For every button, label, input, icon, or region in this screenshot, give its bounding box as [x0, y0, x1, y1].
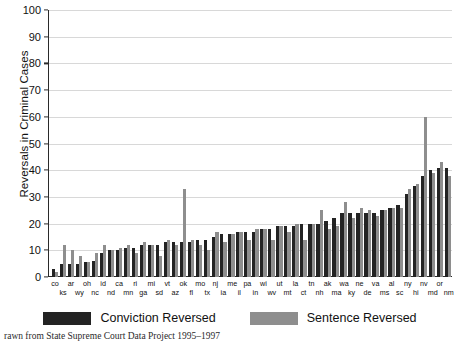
- bar-group: [267, 10, 275, 277]
- y-tick-label: 0: [7, 271, 48, 283]
- bar-sentence-reversed: [95, 253, 98, 277]
- bar-sentence-reversed: [215, 232, 218, 277]
- x-tick-label: oh: [83, 279, 91, 303]
- x-tick-label-bottom: tx: [203, 288, 211, 297]
- sentence-swatch: [250, 312, 298, 325]
- x-tick-label-bottom: ky: [348, 288, 356, 297]
- bar-group: [332, 10, 340, 277]
- x-tick-label: la: [291, 279, 299, 303]
- x-tick-label: nv: [420, 279, 428, 303]
- bar-group: [99, 10, 107, 277]
- x-tick-label-top: mo: [195, 279, 203, 288]
- y-tick-label: 60: [7, 111, 48, 123]
- x-tick-label: id: [99, 279, 107, 303]
- x-tick-label-bottom: wv: [267, 288, 275, 297]
- bar-group: [444, 10, 452, 277]
- x-tick-label: ct: [299, 279, 307, 303]
- x-tick-label: nj: [211, 279, 219, 303]
- x-tick-label: va: [372, 279, 380, 303]
- x-tick-label-top: ar: [67, 279, 75, 288]
- x-tick-label: ky: [348, 279, 356, 303]
- x-tick-label-bottom: nm: [444, 288, 452, 297]
- bar-group: [420, 10, 428, 277]
- x-tick-label: fl: [187, 279, 195, 303]
- bar-sentence-reversed: [167, 240, 170, 277]
- x-tick-label-bottom: sc: [396, 288, 404, 297]
- x-tick-label-bottom: mt: [283, 288, 291, 297]
- bar-sentence-reversed: [336, 226, 339, 277]
- y-tick-label: 50: [7, 138, 48, 150]
- x-axis-labels: coksarwyohncidndcamnrigamisdvtazokflmotx…: [48, 279, 452, 303]
- x-tick-label-bottom: il: [235, 288, 243, 297]
- x-tick-label: wa: [340, 279, 348, 303]
- bar-sentence-reversed: [295, 224, 298, 277]
- bar-group: [91, 10, 99, 277]
- bar-sentence-reversed: [440, 162, 443, 277]
- bar-sentence-reversed: [79, 256, 82, 277]
- bar-group: [219, 10, 227, 277]
- legend-item-sentence: Sentence Reversed: [250, 311, 417, 325]
- x-tick-label-top: or: [436, 279, 444, 288]
- x-tick-label-top: ca: [115, 279, 123, 288]
- x-tick-label: ca: [115, 279, 123, 303]
- bar-sentence-reversed: [368, 210, 371, 277]
- x-tick-label: ga: [139, 279, 147, 303]
- bar-series-container: [48, 10, 452, 277]
- bar-group: [227, 10, 235, 277]
- bar-group: [283, 10, 291, 277]
- bar-sentence-reversed: [352, 218, 355, 277]
- bar-sentence-reversed: [392, 208, 395, 277]
- figure-caption: rawn from State Supreme Court Data Proje…: [0, 331, 460, 341]
- x-tick-label: il: [235, 279, 243, 303]
- bar-group: [59, 10, 67, 277]
- bar-sentence-reversed: [376, 216, 379, 277]
- x-tick-label-top: oh: [83, 279, 91, 288]
- bar-sentence-reversed: [207, 250, 210, 277]
- bar-sentence-reversed: [400, 208, 403, 277]
- bar-sentence-reversed: [103, 245, 106, 277]
- bar-sentence-reversed: [271, 240, 274, 277]
- bar-sentence-reversed: [239, 232, 242, 277]
- bar-sentence-reversed: [151, 245, 154, 277]
- bar-group: [179, 10, 187, 277]
- bar-group: [211, 10, 219, 277]
- bar-group: [428, 10, 436, 277]
- bar-sentence-reversed: [328, 229, 331, 277]
- bar-group: [372, 10, 380, 277]
- bar-group: [131, 10, 139, 277]
- bar-sentence-reversed: [127, 245, 130, 277]
- x-tick-label-top: ut: [275, 279, 283, 288]
- x-tick-label-bottom: az: [171, 288, 179, 297]
- x-tick-label: or: [436, 279, 444, 303]
- x-tick-label-bottom: hi: [412, 288, 420, 297]
- x-tick-label-bottom: nd: [107, 288, 115, 297]
- legend-item-conviction: Conviction Reversed: [43, 311, 215, 325]
- bar-sentence-reversed: [231, 234, 234, 277]
- x-tick-label-top: la: [291, 279, 299, 288]
- x-tick-label: mo: [195, 279, 203, 303]
- bar-group: [51, 10, 59, 277]
- bar-sentence-reversed: [448, 176, 451, 277]
- bar-group: [396, 10, 404, 277]
- bar-sentence-reversed: [320, 210, 323, 277]
- x-tick-label: sc: [396, 279, 404, 303]
- bar-group: [195, 10, 203, 277]
- x-tick-label-bottom: md: [428, 288, 436, 297]
- x-tick-label: ne: [356, 279, 364, 303]
- bar-group: [324, 10, 332, 277]
- x-tick-label-top: ak: [324, 279, 332, 288]
- bar-group: [155, 10, 163, 277]
- x-tick-label: nd: [107, 279, 115, 303]
- x-tick-label: mi: [147, 279, 155, 303]
- bar-sentence-reversed: [424, 117, 427, 277]
- y-tick-label: 20: [7, 218, 48, 230]
- x-tick-label-bottom: ms: [380, 288, 388, 297]
- x-tick-label-top: co: [51, 279, 59, 288]
- x-tick-label-bottom: ga: [139, 288, 147, 297]
- y-tick-label: 30: [7, 191, 48, 203]
- bar-sentence-reversed: [135, 253, 138, 277]
- x-tick-label: me: [227, 279, 235, 303]
- bar-sentence-reversed: [408, 189, 411, 277]
- x-tick-label: tx: [203, 279, 211, 303]
- y-tick-label: 70: [7, 84, 48, 96]
